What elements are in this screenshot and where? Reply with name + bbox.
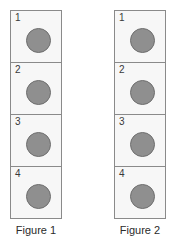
figure-2-cell-3: 3: [115, 115, 165, 167]
figure-2-caption: Figure 2: [107, 224, 171, 237]
figure-1-cell-2-number: 2: [15, 64, 21, 76]
figure-2-cell-2-number: 2: [119, 64, 125, 76]
gray-circle-icon: [26, 80, 51, 105]
figure-1-cell-1: 1: [11, 11, 61, 63]
figure-2-cell-4: 4: [115, 167, 165, 218]
figure-1-cell-1-number: 1: [15, 12, 21, 24]
figure-2-column-box: 1 2 3 4: [114, 10, 166, 219]
gray-circle-icon: [130, 184, 155, 209]
figure-1-column-box: 1 2 3 4: [10, 10, 62, 219]
gray-circle-icon: [26, 132, 51, 157]
figure-2-cell-1-number: 1: [119, 12, 125, 24]
figure-1-caption: Figure 1: [3, 224, 69, 237]
figure-2-cell-4-number: 4: [119, 168, 125, 180]
figure-1-cell-2: 2: [11, 63, 61, 115]
figure-1-cell-3-number: 3: [15, 116, 21, 128]
figure-1-cell-4-number: 4: [15, 168, 21, 180]
figure-1-group: 1 2 3 4 Figure 1: [10, 0, 63, 242]
gray-circle-icon: [26, 28, 51, 53]
gray-circle-icon: [130, 28, 155, 53]
figure-2-cell-1: 1: [115, 11, 165, 63]
gray-circle-icon: [26, 184, 51, 209]
gray-circle-icon: [130, 80, 155, 105]
figure-2-group: 1 2 3 4 Figure 2: [114, 0, 167, 242]
figure-2-cell-3-number: 3: [119, 116, 125, 128]
figure-1-cell-3: 3: [11, 115, 61, 167]
figure-2-cell-2: 2: [115, 63, 165, 115]
figure-1-cell-4: 4: [11, 167, 61, 218]
gray-circle-icon: [130, 132, 155, 157]
